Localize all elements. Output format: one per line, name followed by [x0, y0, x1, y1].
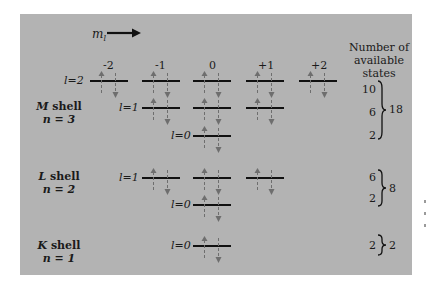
- energy-level-line: [193, 204, 231, 206]
- spin-up-arrow-icon: [201, 98, 208, 124]
- states-l-l1: 6: [369, 172, 376, 183]
- energy-level-line: [246, 107, 284, 109]
- spin-down-arrow-icon: [321, 73, 328, 99]
- spin-down-arrow-icon: [215, 170, 222, 196]
- spin-up-arrow-icon: [254, 71, 261, 97]
- energy-level-line: [246, 80, 284, 82]
- spin-down-arrow-icon: [268, 100, 275, 126]
- states-m-l1: 6: [369, 107, 376, 118]
- total-l: 8: [389, 183, 396, 194]
- scan-artifact: [424, 224, 426, 227]
- spin-down-arrow-icon: [268, 170, 275, 196]
- spin-up-arrow-icon: [150, 71, 157, 97]
- spin-down-arrow-icon: [164, 100, 171, 126]
- ml-header-minus-2: -2: [103, 60, 114, 71]
- ml-header-minus-1: -1: [155, 60, 166, 71]
- energy-level-line: [193, 135, 231, 137]
- subshell-label-k-l0: l=0: [171, 240, 191, 251]
- states-m-l0: 2: [369, 130, 376, 141]
- spin-up-arrow-icon: [254, 98, 261, 124]
- spin-down-arrow-icon: [215, 73, 222, 99]
- energy-level-line: [142, 107, 180, 109]
- energy-level-line: [142, 80, 180, 82]
- spin-up-arrow-icon: [201, 126, 208, 152]
- ml-header-0: 0: [209, 60, 216, 71]
- spin-down-arrow-icon: [164, 170, 171, 196]
- spin-up-arrow-icon: [201, 236, 208, 262]
- spin-down-arrow-icon: [215, 238, 222, 264]
- subshell-label-l-l1: l=1: [119, 172, 139, 183]
- energy-level-line: [142, 177, 180, 179]
- energy-level-line: [193, 80, 231, 82]
- spin-up-arrow-icon: [201, 71, 208, 97]
- shell-label-m: M shell n = 3: [34, 100, 84, 126]
- spin-up-arrow-icon: [201, 195, 208, 221]
- energy-level-line: [246, 177, 284, 179]
- spin-down-arrow-icon: [164, 73, 171, 99]
- spin-down-arrow-icon: [268, 73, 275, 99]
- spin-up-arrow-icon: [254, 168, 261, 194]
- scan-artifact: [424, 212, 426, 215]
- ml-header-plus-2: +2: [311, 60, 327, 71]
- energy-level-line: [299, 80, 337, 82]
- subshell-label-m-l0: l=0: [171, 130, 191, 141]
- spin-up-arrow-icon: [307, 71, 314, 97]
- shell-label-k: K shell n = 1: [34, 239, 84, 265]
- spin-down-arrow-icon: [215, 197, 222, 223]
- spin-up-arrow-icon: [201, 168, 208, 194]
- states-header: Number of available states: [348, 41, 410, 80]
- ml-axis-label: ml: [92, 28, 106, 43]
- states-l-l0: 2: [369, 193, 376, 204]
- energy-level-line: [90, 80, 128, 82]
- brace-m-icon: [377, 80, 387, 140]
- energy-level-line: [193, 107, 231, 109]
- ml-header-plus-1: +1: [258, 60, 274, 71]
- spin-up-arrow-icon: [98, 71, 105, 97]
- spin-down-arrow-icon: [215, 100, 222, 126]
- spin-up-arrow-icon: [150, 168, 157, 194]
- shell-label-l: L shell n = 2: [34, 170, 84, 196]
- spin-down-arrow-icon: [112, 73, 119, 99]
- spin-up-arrow-icon: [150, 98, 157, 124]
- total-m: 18: [389, 104, 403, 115]
- energy-level-line: [193, 177, 231, 179]
- subshell-label-l-l0: l=0: [171, 199, 191, 210]
- subshell-label-m-l2: l=2: [64, 75, 84, 86]
- brace-l-icon: [377, 169, 387, 207]
- states-k-l0: 2: [369, 240, 376, 251]
- states-m-l2: 10: [362, 84, 376, 95]
- ml-direction-arrow-icon: [106, 27, 142, 39]
- energy-level-line: [193, 245, 231, 247]
- total-k: 2: [389, 240, 396, 251]
- scan-artifact: [424, 200, 426, 203]
- spin-down-arrow-icon: [215, 128, 222, 154]
- subshell-label-m-l1: l=1: [119, 102, 139, 113]
- brace-k-icon: [377, 234, 387, 256]
